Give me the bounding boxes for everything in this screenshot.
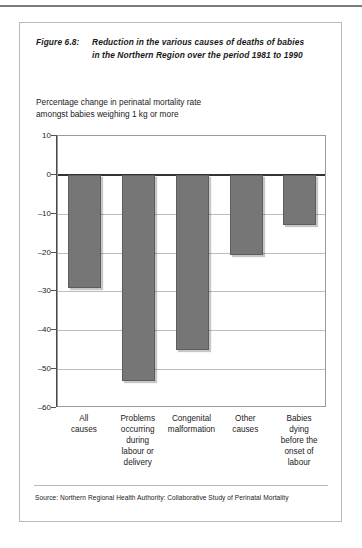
y-tick-label: –10 bbox=[38, 208, 51, 217]
gridline bbox=[58, 369, 325, 370]
x-category-label: Congenitalmalformation bbox=[165, 413, 219, 499]
plot-area bbox=[57, 135, 326, 407]
figure-number-label: Figure 6.8: bbox=[36, 36, 92, 49]
chart-subtitle-line-2: amongst babies weighing 1 kg or more bbox=[36, 109, 326, 121]
x-category-label-line: causes bbox=[219, 424, 271, 435]
figure-title: Figure 6.8: Reduction in the various cau… bbox=[36, 36, 332, 61]
x-axis-category-labels: AllcausesProblemsoccurringduringlabour o… bbox=[57, 413, 326, 499]
y-axis-labels: 100–10–20–30–40–50–60 bbox=[20, 135, 51, 407]
x-category-label-line: labour bbox=[273, 457, 325, 468]
figure-title-line-1: Reduction in the various causes of death… bbox=[92, 36, 304, 49]
bar bbox=[283, 175, 316, 226]
x-category-label-line: Babies bbox=[273, 413, 325, 424]
x-category-label-line: malformation bbox=[166, 424, 218, 435]
y-tick-label: –30 bbox=[38, 286, 51, 295]
x-category-label-line: onset of bbox=[273, 446, 325, 457]
chart-subtitle: Percentage change in perinatal mortality… bbox=[36, 97, 326, 120]
y-tick-label: –50 bbox=[38, 364, 51, 373]
x-category-label-line: Problems bbox=[112, 413, 164, 424]
x-category-label: Babiesdyingbefore theonset oflabour bbox=[272, 413, 326, 499]
figure-container: Figure 6.8: Reduction in the various cau… bbox=[19, 22, 342, 522]
y-tick-label: –60 bbox=[38, 403, 51, 412]
x-category-label-line: Other bbox=[219, 413, 271, 424]
chart-subtitle-line-1: Percentage change in perinatal mortality… bbox=[36, 97, 326, 109]
x-category-label-line: All bbox=[58, 413, 110, 424]
source-divider bbox=[34, 485, 328, 486]
x-category-label-line: during bbox=[112, 435, 164, 446]
figure-title-line-2: in the Northern Region over the period 1… bbox=[92, 49, 304, 62]
y-tick-mark bbox=[51, 407, 56, 408]
figure-title-text: Reduction in the various causes of death… bbox=[92, 36, 304, 61]
source-note: Source: Northern Regional Health Authori… bbox=[35, 493, 331, 502]
page-top-rule bbox=[0, 5, 362, 7]
y-tick-label: –40 bbox=[38, 325, 51, 334]
y-tick-label: 10 bbox=[42, 131, 51, 140]
bar bbox=[122, 175, 155, 381]
x-category-label-line: labour or bbox=[112, 446, 164, 457]
x-category-label-line: before the bbox=[273, 435, 325, 446]
x-category-label: Othercauses bbox=[218, 413, 272, 499]
x-category-label: Problemsoccurringduringlabour ordelivery bbox=[111, 413, 165, 499]
x-category-label-line: occurring bbox=[112, 424, 164, 435]
x-category-label: Allcauses bbox=[57, 413, 111, 499]
bar bbox=[68, 175, 101, 288]
x-category-label-line: Congenital bbox=[166, 413, 218, 424]
y-tick-label: –20 bbox=[38, 247, 51, 256]
bar bbox=[230, 175, 263, 255]
x-category-label-line: delivery bbox=[112, 457, 164, 468]
bar bbox=[176, 175, 209, 350]
x-category-label-line: dying bbox=[273, 424, 325, 435]
x-category-label-line: causes bbox=[58, 424, 110, 435]
